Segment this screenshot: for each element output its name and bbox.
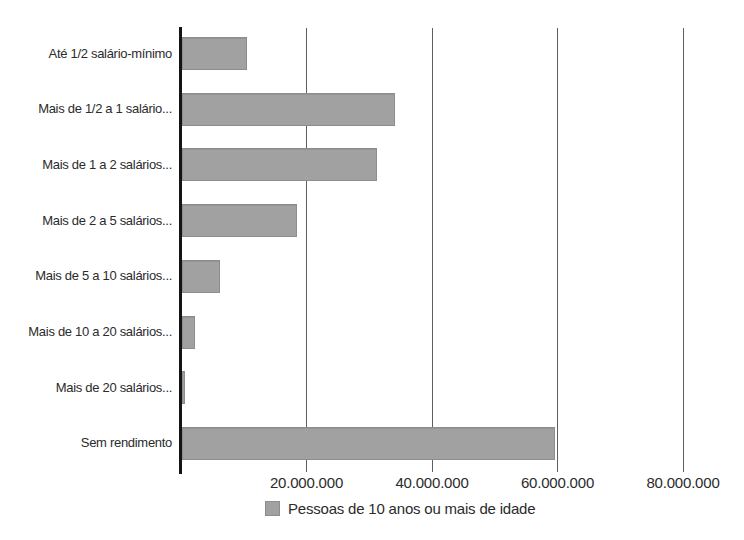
tick-mark [683,459,684,472]
bar [182,427,555,460]
tick-mark [432,459,433,472]
bar [182,37,247,70]
legend-swatch [265,501,280,516]
bar [182,316,195,349]
tick-mark [557,459,558,472]
category-label: Sem rendimento [0,434,172,452]
legend: Pessoas de 10 anos ou mais de idade [265,500,535,517]
bar [182,148,377,181]
bar [182,260,220,293]
bar [182,204,297,237]
plot-area: 20.000.00040.000.00060.000.00080.000.000… [0,0,744,540]
x-tick-label: 40.000.000 [372,474,492,491]
category-label: Mais de 20 salários... [0,379,172,397]
category-label: Mais de 1 a 2 salários... [0,156,172,174]
legend-label: Pessoas de 10 anos ou mais de idade [288,500,535,517]
gridline [683,28,684,459]
category-label: Até 1/2 salário-mínimo [0,45,172,63]
gridline [432,28,433,459]
x-tick-label: 20.000.000 [247,474,367,491]
bar [182,93,395,126]
gridline [557,28,558,459]
category-label: Mais de 2 a 5 salários... [0,212,172,230]
category-label: Mais de 10 a 20 salários... [0,323,172,341]
bar [182,371,185,404]
category-label: Mais de 5 a 10 salários... [0,267,172,285]
category-label: Mais de 1/2 a 1 salário... [0,100,172,118]
bar-chart: 20.000.00040.000.00060.000.00080.000.000… [0,0,744,540]
x-tick-label: 80.000.000 [623,474,743,491]
tick-mark [306,459,307,472]
x-tick-label: 60.000.000 [498,474,618,491]
